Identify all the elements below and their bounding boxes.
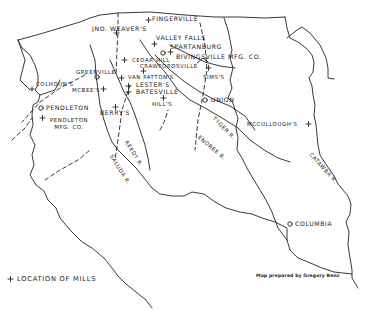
tributary-west (18, 40, 30, 90)
mill-label-simss: Sims's (203, 75, 225, 80)
town-label-columbia: Columbia (295, 221, 332, 227)
dashed-line-5 (45, 150, 90, 180)
town-marker-greenville (95, 75, 99, 79)
congaree-river (287, 240, 352, 274)
mill-label-mcculloughs: McCullough's (247, 122, 297, 127)
town-label-union: Union (211, 97, 234, 103)
mill-label-pendleton-mfg: Pendleton Mfg. Co. (46, 117, 92, 131)
mill-label-berrys: Berry's (100, 110, 130, 116)
town-marker-union (203, 98, 207, 102)
town-label-greenville: Greenville (76, 70, 115, 75)
legend-mill-symbol (8, 277, 13, 282)
dashed-line-6 (12, 118, 32, 140)
dashed-line-1 (116, 13, 118, 75)
town-label-spartanburg: Spartanburg (170, 44, 222, 50)
mill-label-bivingsville: Bivingsville Mfg. Co. (176, 54, 261, 60)
town-label-pendleton: Pendleton (46, 105, 89, 111)
mill-label-jno-weavers: Jno. Weaver's (92, 26, 147, 32)
map-credit: Map prepared by Gregory Benz (256, 274, 340, 279)
mill-label-mcbees: McBee's (72, 88, 100, 93)
legend-label: Location of Mills (17, 276, 96, 283)
mill-label-valley-falls: Valley Falls (156, 35, 206, 41)
town-marker-pendleton (39, 106, 43, 110)
catawba-river (285, 17, 358, 288)
mill-label-crawfordsville: Crawfordsville (140, 64, 198, 69)
mill-label-fingerville: Fingerville (152, 16, 198, 22)
saluda-river (90, 45, 287, 240)
dashed-line-7 (160, 110, 168, 130)
town-marker-spartanburg (161, 51, 165, 55)
mill-label-hills: Hill's (152, 102, 172, 107)
broad-river (224, 18, 287, 240)
mill-label-batesville: Batesville (136, 89, 178, 95)
town-marker-columbia (288, 222, 292, 226)
mill-label-van-pattons: Van Patton's (128, 75, 174, 80)
mill-label-colhouns: Colhoun's (36, 82, 74, 87)
